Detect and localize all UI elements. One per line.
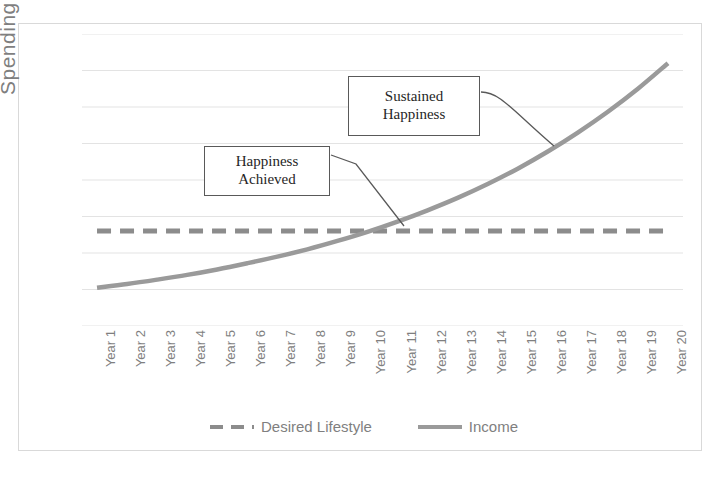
x-axis-tick-label: Year 11	[405, 330, 419, 412]
legend-label-desired-lifestyle: Desired Lifestyle	[261, 418, 372, 435]
callout-sustained-happiness-line2: Happiness	[383, 106, 446, 124]
legend-item-desired-lifestyle[interactable]: Desired Lifestyle	[210, 418, 372, 435]
y-axis-title-label: Spending	[0, 0, 20, 95]
x-axis-tick-label: Year 10	[374, 330, 388, 412]
callout-happiness-achieved-line2: Achieved	[238, 171, 295, 189]
x-axis-tick-label: Year 14	[495, 330, 509, 412]
legend-swatch-solid-icon	[418, 425, 462, 429]
x-axis-tick-label: Year 17	[585, 330, 599, 412]
x-axis-tick-label: Year 7	[284, 330, 298, 412]
x-axis-tick-label: Year 5	[224, 330, 238, 412]
x-axis-tick-label: Year 12	[435, 330, 449, 412]
x-axis-tick-label: Year 9	[344, 330, 358, 412]
x-axis-tick-labels: Year 1Year 2Year 3Year 4Year 5Year 6Year…	[82, 330, 683, 412]
x-axis-tick-label: Year 16	[555, 330, 569, 412]
x-axis-tick-label: Year 2	[134, 330, 148, 412]
x-axis-tick-label: Year 13	[465, 330, 479, 412]
x-axis-tick-label: Year 3	[164, 330, 178, 412]
chart-legend: Desired Lifestyle Income	[0, 418, 728, 435]
x-axis-tick-label: Year 1	[104, 330, 118, 412]
chart-container: Spending Happiness Achieved Sustained Ha…	[0, 0, 728, 480]
legend-item-income[interactable]: Income	[418, 418, 518, 435]
legend-swatch-dashed-icon	[210, 425, 254, 429]
x-axis-tick-label: Year 6	[254, 330, 268, 412]
x-axis-tick-label: Year 19	[645, 330, 659, 412]
callout-happiness-achieved: Happiness Achieved	[204, 146, 330, 196]
callout-happiness-achieved-line1: Happiness	[236, 153, 299, 171]
callout-sustained-happiness: Sustained Happiness	[348, 76, 480, 136]
x-axis-tick-label: Year 8	[314, 330, 328, 412]
y-axis-title: Spending	[0, 0, 20, 95]
x-axis-tick-label: Year 15	[525, 330, 539, 412]
legend-label-income: Income	[469, 418, 518, 435]
callout-sustained-happiness-line1: Sustained	[385, 88, 443, 106]
x-axis-tick-label: Year 18	[615, 330, 629, 412]
x-axis-tick-label: Year 20	[675, 330, 689, 412]
x-axis-tick-label: Year 4	[194, 330, 208, 412]
